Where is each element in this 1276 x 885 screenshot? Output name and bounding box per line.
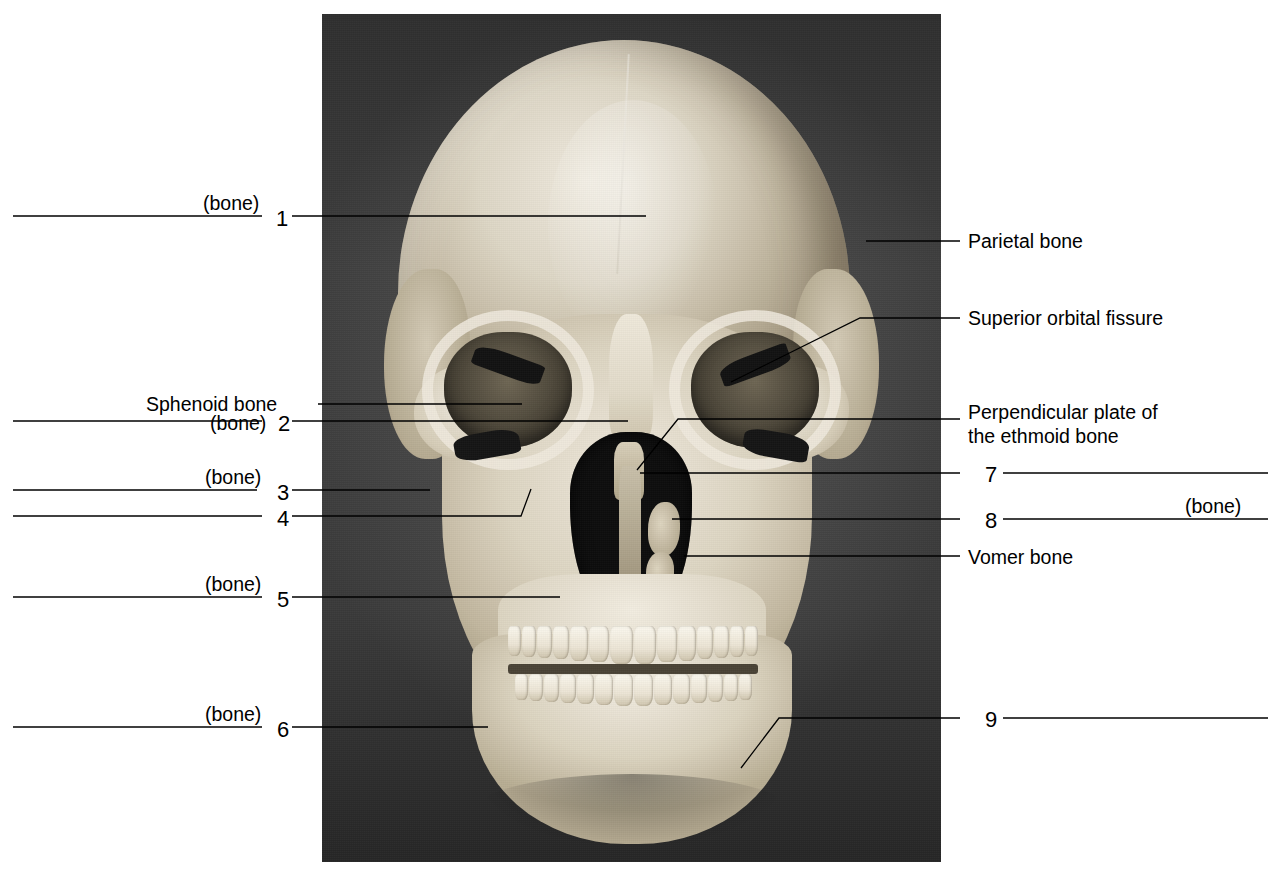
number-9: 9: [985, 707, 997, 733]
label-perpendicular-plate-line2: the ethmoid bone: [968, 424, 1119, 449]
leader-perpendicular-plate: [637, 419, 960, 470]
leader-9: [741, 718, 960, 768]
bone-tag-2: (bone): [210, 412, 266, 435]
number-4: 4: [277, 506, 289, 532]
number-7: 7: [985, 462, 997, 488]
bone-tag-8: (bone): [1185, 495, 1241, 518]
bone-tag-3: (bone): [205, 466, 261, 489]
number-2: 2: [278, 411, 290, 437]
leader-superior-orbital-fissure: [731, 318, 960, 382]
skull-labeling-figure: (bone) 1 Sphenoid bone (bone) 2 (bone) 3…: [0, 0, 1276, 885]
number-6: 6: [277, 717, 289, 743]
number-1: 1: [276, 206, 288, 232]
number-3: 3: [277, 480, 289, 506]
label-perpendicular-plate-line1: Perpendicular plate of: [968, 400, 1158, 425]
number-8: 8: [985, 508, 997, 534]
label-vomer-bone: Vomer bone: [968, 545, 1073, 570]
bone-tag-1: (bone): [203, 192, 259, 215]
label-parietal-bone: Parietal bone: [968, 229, 1083, 254]
label-superior-orbital-fissure: Superior orbital fissure: [968, 306, 1163, 331]
leader-4: [292, 489, 531, 516]
bone-tag-5: (bone): [205, 573, 261, 596]
number-5: 5: [277, 587, 289, 613]
bone-tag-6: (bone): [205, 703, 261, 726]
